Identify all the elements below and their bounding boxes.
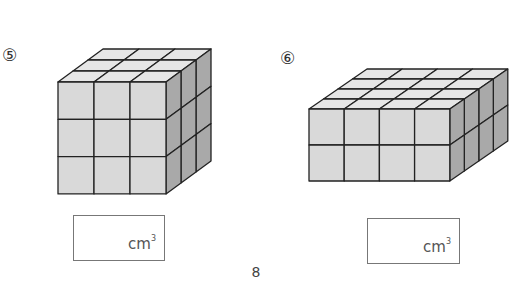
problem-6-unit: cm3 — [423, 238, 451, 256]
problem-5-answer-box[interactable]: cm3 — [73, 215, 165, 261]
problem-5-unit: cm3 — [128, 235, 156, 253]
page-number: 8 — [0, 264, 512, 280]
problem-6-cube-figure — [309, 69, 508, 181]
problem-6-answer-box[interactable]: cm3 — [367, 218, 460, 264]
problem-5-cube-figure — [58, 49, 211, 194]
